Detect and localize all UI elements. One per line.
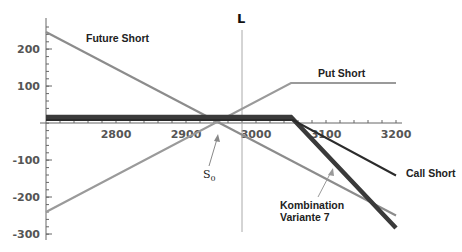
label-future-short: Future Short	[86, 32, 149, 44]
series-call-short	[46, 120, 396, 176]
s0-arrowhead-icon	[214, 134, 220, 142]
x-tick-2800: 2800	[101, 128, 132, 141]
label-call-short: Call Short	[406, 167, 456, 179]
label-kombination-1: Kombination	[280, 199, 344, 211]
x-tick-3100: 3100	[311, 128, 342, 141]
x-tick-3200: 3200	[381, 128, 412, 141]
kombination-arrowhead-icon	[328, 168, 334, 176]
l-marker: L	[237, 11, 245, 232]
x-axis: 2800 2900 3000 3100 3200	[40, 120, 412, 141]
y-tick-100: 100	[17, 80, 40, 93]
s0-annotation: S0	[203, 134, 220, 183]
label-kombination-2: Variante 7	[280, 211, 330, 223]
series-future-short	[46, 32, 396, 216]
y-tick-minus-100: -100	[12, 154, 40, 167]
label-put-short: Put Short	[318, 67, 366, 79]
y-tick-200: 200	[17, 43, 40, 56]
payoff-chart: 200 100 -100 -200 -300 2800 2900 3000 31…	[0, 0, 462, 252]
y-tick-minus-300: -300	[12, 228, 40, 241]
y-tick-minus-200: -200	[12, 191, 40, 204]
s0-arrow	[209, 139, 217, 166]
label-s0: S0	[203, 168, 216, 183]
x-tick-3000: 3000	[241, 128, 272, 141]
series-kombination	[46, 117, 396, 228]
y-axis: 200 100 -100 -200 -300	[12, 18, 52, 241]
l-marker-label: L	[237, 11, 245, 26]
